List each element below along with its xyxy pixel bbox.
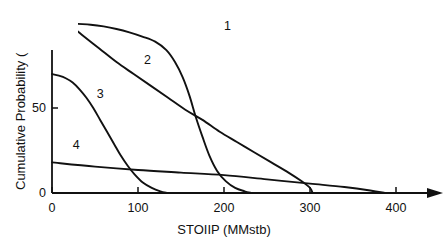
corner-mask-lower bbox=[0, 0, 34, 60]
curve-4 bbox=[52, 162, 385, 193]
axes-group bbox=[52, 50, 443, 198]
curves-group bbox=[52, 23, 385, 193]
curve-label-3: 3 bbox=[97, 88, 104, 101]
x-tick-label: 300 bbox=[300, 202, 321, 215]
curve-label-1: 1 bbox=[224, 20, 231, 33]
curve-label-2: 2 bbox=[144, 54, 151, 67]
y-tick-label: 50 bbox=[24, 102, 46, 115]
x-tick-label: 0 bbox=[49, 202, 56, 215]
y-tick-label: 0 bbox=[24, 187, 46, 200]
x-tick-label: 400 bbox=[386, 202, 407, 215]
curve-label-4: 4 bbox=[73, 139, 80, 152]
y-axis-title: Cumulative Probability ( bbox=[14, 53, 27, 190]
x-tick-label: 100 bbox=[128, 202, 149, 215]
x-axis-arrow-icon bbox=[427, 188, 443, 198]
x-tick-label: 200 bbox=[214, 202, 235, 215]
curve-3 bbox=[52, 74, 167, 193]
x-axis-title: STOIIP (MMstb) bbox=[177, 223, 270, 236]
cumulative-probability-chart: Cumulative Probability ( STOIIP (MMstb) … bbox=[0, 0, 448, 244]
